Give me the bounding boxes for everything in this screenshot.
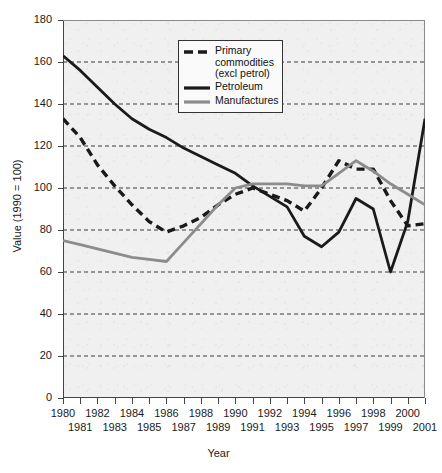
x-tick-mark — [253, 398, 254, 404]
y-tick-mark — [58, 62, 63, 63]
y-tick-label: 180 — [8, 14, 52, 25]
x-tick-mark — [304, 398, 305, 404]
x-tick-mark — [287, 398, 288, 404]
y-axis-title: Value (1990 = 100) — [11, 126, 23, 286]
x-tick-mark — [322, 398, 323, 404]
x-tick-mark — [218, 398, 219, 404]
legend-swatch-solid-gray-icon — [184, 96, 210, 108]
legend-label-primary-commodities: Primary commodities (excl petrol) — [215, 45, 274, 80]
chart-legend: Primary commodities (excl petrol) Petrol… — [178, 40, 283, 113]
y-tick-label: 160 — [8, 56, 52, 67]
y-tick-mark — [58, 230, 63, 231]
x-tick-mark — [408, 398, 409, 404]
x-tick-mark — [149, 398, 150, 404]
x-tick-mark — [356, 398, 357, 404]
x-tick-label: 2001 — [405, 421, 442, 433]
x-tick-mark — [339, 398, 340, 404]
x-tick-label: 2000 — [388, 407, 428, 419]
x-tick-mark — [63, 398, 64, 404]
x-axis-title: Year — [0, 447, 437, 459]
series-line-primary-commodities-excl-petrol — [63, 119, 425, 232]
y-tick-mark — [58, 188, 63, 189]
y-tick-label: 140 — [8, 98, 52, 109]
x-tick-mark — [391, 398, 392, 404]
y-tick-mark — [58, 314, 63, 315]
y-tick-label: 0 — [8, 392, 52, 403]
x-tick-mark — [270, 398, 271, 404]
x-tick-mark — [373, 398, 374, 404]
legend-item-petroleum: Petroleum — [184, 81, 277, 94]
y-tick-mark — [58, 20, 63, 21]
legend-item-primary-commodities: Primary commodities (excl petrol) — [184, 45, 277, 80]
y-tick-label: 40 — [8, 308, 52, 319]
legend-label-petroleum: Petroleum — [215, 81, 263, 93]
x-tick-mark — [425, 398, 426, 404]
y-tick-mark — [58, 146, 63, 147]
x-tick-mark — [166, 398, 167, 404]
x-tick-mark — [132, 398, 133, 404]
legend-swatch-solid-black-icon — [184, 82, 210, 94]
legend-swatch-dashed-icon — [184, 46, 210, 58]
legend-item-manufactures: Manufactures — [184, 95, 277, 108]
y-tick-mark — [58, 104, 63, 105]
x-tick-mark — [115, 398, 116, 404]
x-tick-mark — [184, 398, 185, 404]
x-tick-mark — [97, 398, 98, 404]
x-tick-mark — [80, 398, 81, 404]
x-tick-mark — [201, 398, 202, 404]
series-line-manufactures — [63, 161, 425, 262]
y-tick-mark — [58, 356, 63, 357]
y-tick-mark — [58, 272, 63, 273]
y-tick-label: 20 — [8, 350, 52, 361]
legend-label-manufactures: Manufactures — [215, 95, 279, 107]
x-tick-mark — [235, 398, 236, 404]
